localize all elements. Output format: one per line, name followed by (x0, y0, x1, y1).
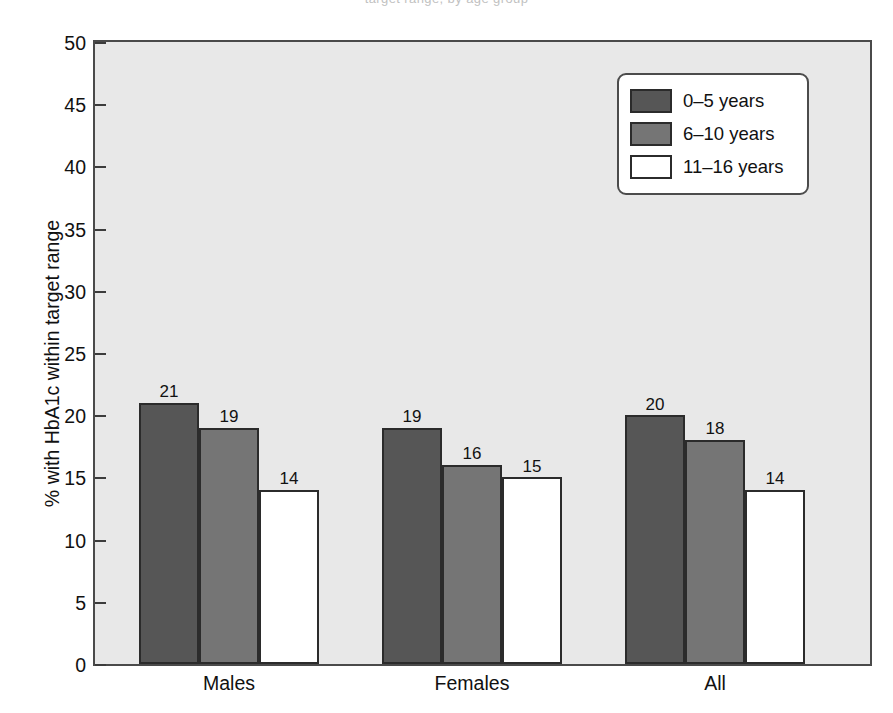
bar-value-label: 21 (160, 383, 179, 402)
y-axis-tick-label: 15 (64, 470, 86, 490)
bar-value-label: 16 (463, 445, 482, 464)
y-axis-tick-label: 30 (64, 283, 86, 303)
bar-value-label: 19 (220, 408, 239, 427)
legend-item[interactable]: 6–10 years (630, 117, 797, 150)
y-axis-tick: 20 (95, 415, 106, 417)
y-axis-tick: 50 (95, 42, 106, 44)
x-axis-label-males: Males (203, 672, 255, 695)
y-axis-tick-label: 20 (64, 407, 86, 427)
bar-males-2: 14 (259, 490, 319, 664)
y-axis-tick-label: 10 (64, 532, 86, 552)
y-axis-title: % with HbA1c within target range (41, 54, 64, 674)
y-axis-tick: 0 (95, 664, 106, 666)
bar-value-label: 18 (706, 420, 725, 439)
y-axis-tick: 10 (95, 540, 106, 542)
y-axis-tick: 15 (95, 477, 106, 479)
figure-container: target range, by age group % with HbA1c … (0, 0, 893, 713)
y-axis-tick-label: 35 (64, 221, 86, 241)
bar-all-2: 14 (745, 490, 805, 664)
y-axis-tick: 5 (95, 602, 106, 604)
bar-males-1: 19 (199, 428, 259, 664)
y-axis-tick-label: 25 (64, 345, 86, 365)
legend-item-label: 6–10 years (683, 123, 775, 145)
y-axis-tick: 35 (95, 229, 106, 231)
legend-swatch-dark (630, 89, 672, 113)
legend-swatch-mid (630, 122, 672, 146)
y-axis-tick-label: 0 (75, 656, 86, 676)
legend-item-label: 0–5 years (683, 90, 764, 112)
bar-value-label: 14 (280, 470, 299, 489)
x-axis-label-all: All (704, 672, 726, 695)
legend-item[interactable]: 0–5 years (630, 84, 797, 117)
y-axis-tick-label: 40 (64, 159, 86, 179)
x-axis-label-females: Females (435, 672, 510, 695)
bar-females-0: 19 (382, 428, 442, 664)
bar-value-label: 15 (523, 458, 542, 477)
y-axis-tick: 30 (95, 291, 106, 293)
bar-males-0: 21 (139, 403, 199, 664)
chart-legend: 0–5 years6–10 years11–16 years (617, 73, 809, 195)
caption-remnant-text: target range, by age group (365, 0, 529, 6)
y-axis-tick: 25 (95, 353, 106, 355)
legend-swatch-light (630, 155, 672, 179)
bar-value-label: 19 (403, 408, 422, 427)
bar-value-label: 14 (766, 470, 785, 489)
y-axis-tick-label: 45 (64, 96, 86, 116)
bar-value-label: 20 (646, 396, 665, 415)
bar-all-1: 18 (685, 440, 745, 664)
y-axis-tick: 40 (95, 166, 106, 168)
caption-remnant: target range, by age group (0, 0, 893, 8)
bar-females-1: 16 (442, 465, 502, 664)
y-axis-tick: 45 (95, 104, 106, 106)
legend-item[interactable]: 11–16 years (630, 150, 797, 183)
legend-item-label: 11–16 years (683, 156, 783, 178)
y-axis-tick-label: 5 (75, 594, 86, 614)
bar-females-2: 15 (502, 477, 562, 664)
bar-all-0: 20 (625, 415, 685, 664)
y-axis-tick-label: 50 (64, 34, 86, 54)
